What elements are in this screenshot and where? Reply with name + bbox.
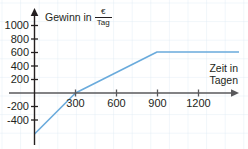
y-axis-title: Gewinn in € Tag bbox=[45, 7, 112, 26]
fraction-denominator: Tag bbox=[95, 18, 112, 27]
y-tick-label-1000: 1000 bbox=[0, 20, 29, 31]
x-tick-label-900: 900 bbox=[138, 98, 178, 109]
y-tick-label-200: 200 bbox=[0, 74, 29, 85]
x-axis bbox=[9, 89, 239, 97]
x-axis-title: Zeit in Tagen bbox=[209, 62, 238, 86]
y-axis-title-text: Gewinn in bbox=[45, 11, 92, 23]
fraction-numerator: € bbox=[99, 8, 107, 17]
y-tick-label-400: 400 bbox=[0, 61, 29, 72]
y-tick-label-600: 600 bbox=[0, 47, 29, 58]
y-tick-label-minus-400: -400 bbox=[0, 115, 29, 126]
y-axis-unit-fraction: € Tag bbox=[95, 8, 112, 27]
x-tick-label-600: 600 bbox=[97, 98, 137, 109]
y-axis bbox=[31, 8, 39, 145]
chart-figure: Gewinn in € Tag Zeit in Tagen 1000 800 6… bbox=[0, 0, 248, 149]
x-axis-title-line2: Tagen bbox=[209, 74, 238, 86]
x-tick-label-300: 300 bbox=[56, 98, 96, 109]
x-tick-label-1200: 1200 bbox=[179, 98, 219, 109]
x-axis-title-line1: Zeit in bbox=[209, 62, 238, 74]
y-tick-label-800: 800 bbox=[0, 34, 29, 45]
y-tick-label-minus-200: -200 bbox=[0, 101, 29, 112]
